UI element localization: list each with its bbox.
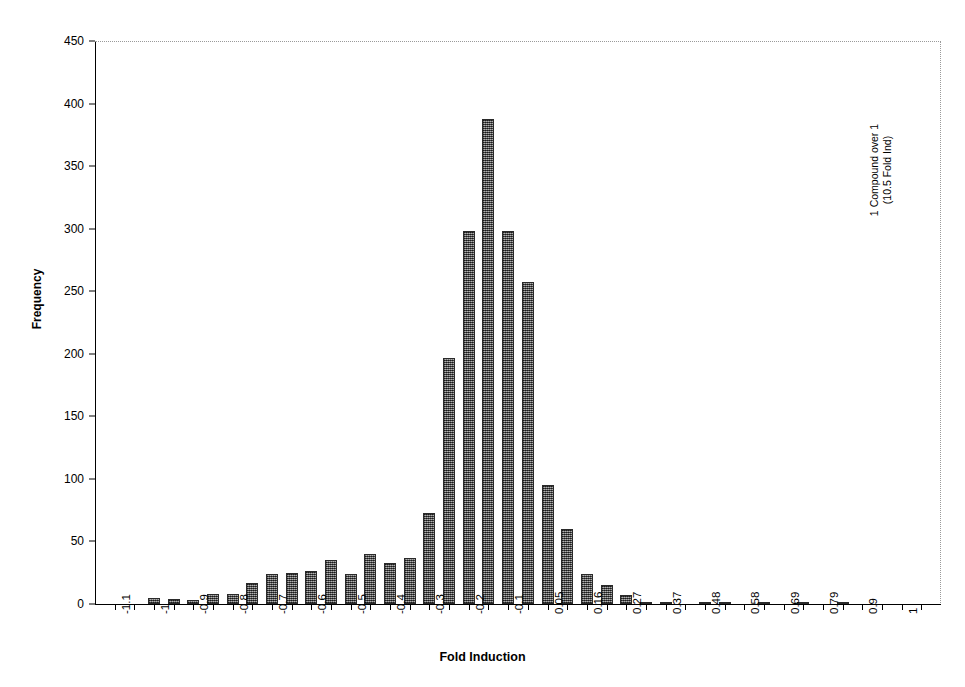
x-tick-label: 0.16 xyxy=(592,592,604,614)
x-tick-label: 0.27 xyxy=(631,592,643,614)
histogram-bar xyxy=(482,119,494,604)
x-tick-mark xyxy=(193,604,194,610)
x-tick-mark xyxy=(508,604,509,610)
x-tick-mark xyxy=(311,604,312,610)
x-axis-title: Fold Induction xyxy=(0,650,965,664)
x-tick-mark xyxy=(331,604,332,610)
histogram-bar xyxy=(463,231,475,604)
x-tick-mark xyxy=(213,604,214,610)
x-tick-label: 0.58 xyxy=(749,592,761,614)
x-tick-mark xyxy=(803,604,804,610)
x-tick-mark xyxy=(646,604,647,610)
x-tick-mark xyxy=(154,604,155,610)
y-tick-label: 200 xyxy=(40,347,84,361)
y-tick-label: 450 xyxy=(40,34,84,48)
histogram-figure: Frequency 050100150200250300350400450 -1… xyxy=(0,0,965,687)
y-tick-label: 250 xyxy=(40,284,84,298)
x-tick-mark xyxy=(292,604,293,610)
y-tick-label: 350 xyxy=(40,159,84,173)
x-tick-mark xyxy=(488,604,489,610)
y-axis-tick-labels: 050100150200250300350400450 xyxy=(40,41,84,604)
x-tick-mark xyxy=(528,604,529,610)
y-tick-label: 300 xyxy=(40,222,84,236)
histogram-bar xyxy=(502,231,514,604)
plot-area xyxy=(95,41,941,604)
x-tick-mark xyxy=(921,604,922,610)
x-tick-mark xyxy=(252,604,253,610)
x-tick-mark xyxy=(862,604,863,610)
x-tick-mark xyxy=(351,604,352,610)
x-tick-mark xyxy=(390,604,391,610)
histogram-bar xyxy=(423,513,435,604)
x-tick-label: -0.2 xyxy=(474,594,486,614)
x-tick-label: 0.37 xyxy=(671,592,683,614)
x-tick-mark xyxy=(449,604,450,610)
annotation-line-2: (10.5 Fold Ind) xyxy=(881,80,894,260)
x-tick-label: -1.1 xyxy=(120,594,132,614)
y-tick-label: 100 xyxy=(40,472,84,486)
x-tick-label: -0.9 xyxy=(198,594,210,614)
x-tick-label: -0.5 xyxy=(356,594,368,614)
x-tick-label: 1 xyxy=(907,608,919,614)
y-tick-label: 0 xyxy=(40,597,84,611)
x-tick-mark xyxy=(233,604,234,610)
x-tick-mark xyxy=(607,604,608,610)
x-tick-mark xyxy=(705,604,706,610)
x-tick-mark xyxy=(902,604,903,610)
x-tick-mark xyxy=(764,604,765,610)
x-tick-label: -0.6 xyxy=(316,594,328,614)
x-tick-label: -0.8 xyxy=(238,594,250,614)
x-tick-mark xyxy=(685,604,686,610)
x-tick-mark xyxy=(548,604,549,610)
x-tick-label: -0.3 xyxy=(434,594,446,614)
x-tick-label: -1 xyxy=(159,604,171,614)
x-tick-mark xyxy=(410,604,411,610)
x-tick-label: 0.9 xyxy=(867,598,879,614)
x-tick-mark xyxy=(587,604,588,610)
x-tick-mark xyxy=(567,604,568,610)
y-tick-label: 150 xyxy=(40,409,84,423)
x-tick-mark xyxy=(725,604,726,610)
compound-over-1-annotation: 1 Compound over 1 (10.5 Fold Ind) xyxy=(868,80,894,260)
histogram-bar xyxy=(522,282,534,604)
histogram-bar xyxy=(542,485,554,604)
y-tick-label: 50 xyxy=(40,534,84,548)
y-tick-label: 400 xyxy=(40,97,84,111)
x-tick-mark xyxy=(370,604,371,610)
x-tick-mark xyxy=(744,604,745,610)
x-tick-mark xyxy=(882,604,883,610)
x-tick-mark xyxy=(115,604,116,610)
x-tick-mark xyxy=(843,604,844,610)
annotation-line-1: 1 Compound over 1 xyxy=(868,80,881,260)
x-tick-label: -0.7 xyxy=(277,594,289,614)
x-tick-label: 0.05 xyxy=(553,592,565,614)
x-tick-mark xyxy=(469,604,470,610)
x-axis-tick-labels: -1.1-1-0.9-0.8-0.7-0.6-0.5-0.4-0.3-0.2-0… xyxy=(95,604,941,684)
x-tick-mark xyxy=(823,604,824,610)
histogram-bar xyxy=(443,358,455,604)
x-tick-label: -0.4 xyxy=(395,594,407,614)
x-tick-mark xyxy=(784,604,785,610)
x-tick-label: 0.48 xyxy=(710,592,722,614)
x-tick-mark xyxy=(272,604,273,610)
x-tick-mark xyxy=(429,604,430,610)
x-tick-mark xyxy=(666,604,667,610)
x-tick-label: 0.69 xyxy=(789,592,801,614)
x-tick-label: 0.79 xyxy=(828,592,840,614)
x-tick-mark xyxy=(626,604,627,610)
x-tick-label: -0.1 xyxy=(513,594,525,614)
x-tick-mark xyxy=(174,604,175,610)
x-tick-mark xyxy=(134,604,135,610)
